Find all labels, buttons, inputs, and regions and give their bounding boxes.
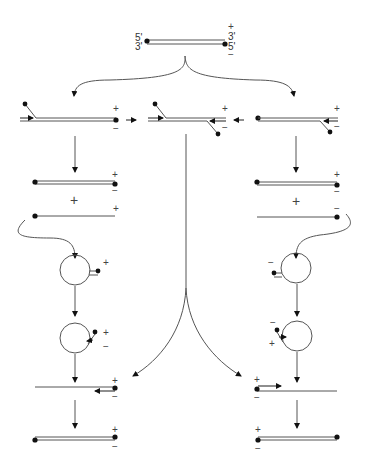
label-3prime-left: 3' bbox=[135, 41, 143, 52]
plus-sign: + bbox=[334, 103, 340, 114]
minus-sign: − bbox=[103, 341, 109, 352]
minus-sign: − bbox=[268, 257, 274, 268]
plus-between: + bbox=[70, 192, 78, 208]
minus-sign: − bbox=[334, 203, 340, 214]
intermediate-left: + − bbox=[20, 102, 119, 134]
minus-sign: − bbox=[270, 317, 276, 328]
plus-sign: + bbox=[269, 338, 275, 349]
plus-sign: + bbox=[112, 169, 118, 180]
plus-sign: + bbox=[222, 103, 228, 114]
plus-sign: + bbox=[113, 103, 119, 114]
left-branch: + − + + + + − + − + − bbox=[18, 136, 119, 452]
plus-sign: + bbox=[103, 257, 109, 268]
minus-sign: − bbox=[255, 443, 261, 454]
minus-sign: − bbox=[112, 441, 118, 452]
top-duplex: 5' 3' + 3' 5' − bbox=[135, 21, 236, 60]
minus-sign: − bbox=[334, 186, 340, 197]
plus-sign: + bbox=[112, 424, 118, 435]
minus-sign: − bbox=[222, 122, 228, 133]
brace-arrows bbox=[74, 56, 294, 96]
plus-sign: + bbox=[254, 374, 260, 385]
label-minus-bottom: − bbox=[228, 49, 234, 60]
minus-sign: − bbox=[112, 391, 118, 402]
plus-sign: + bbox=[103, 327, 109, 338]
minus-sign: − bbox=[334, 121, 340, 132]
end-dot bbox=[144, 38, 149, 43]
plus-sign: + bbox=[112, 375, 118, 386]
plus-sign: + bbox=[334, 169, 340, 180]
minus-sign: − bbox=[113, 123, 119, 134]
minus-sign: − bbox=[254, 392, 260, 403]
replication-diagram: 5' 3' + 3' 5' − + − + − bbox=[0, 0, 368, 463]
plus-sign: + bbox=[255, 424, 261, 435]
central-pathway bbox=[133, 134, 241, 376]
minus-sign: − bbox=[112, 185, 118, 196]
intermediate-middle: + − bbox=[148, 102, 228, 137]
right-branch: + − + − − − + + − + − bbox=[254, 136, 350, 454]
intermediate-right: + − bbox=[255, 103, 340, 134]
plus-between: + bbox=[292, 193, 300, 209]
plus-sign: + bbox=[113, 203, 119, 214]
end-dot bbox=[222, 41, 227, 46]
